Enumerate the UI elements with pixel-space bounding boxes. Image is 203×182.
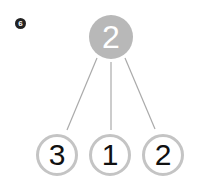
top-node: 2: [89, 15, 133, 59]
bottom-node-2: 1: [89, 134, 131, 176]
problem-number-badge: 6: [15, 18, 26, 29]
bottom-node-1: 3: [36, 134, 78, 176]
bottom-node-3: 2: [142, 134, 184, 176]
